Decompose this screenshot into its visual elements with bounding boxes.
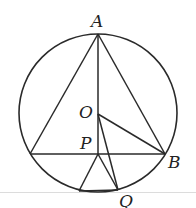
segment-dq — [79, 190, 118, 191]
geometry-diagram: A O P B Q — [0, 0, 196, 208]
label-b: B — [167, 152, 181, 172]
segments — [30, 34, 165, 191]
segment-oq — [98, 114, 118, 190]
label-q: Q — [119, 191, 133, 208]
label-o: O — [79, 102, 93, 122]
segment-ob — [98, 114, 165, 154]
segment-ab — [98, 34, 165, 154]
label-p: P — [79, 133, 92, 153]
segment-pd — [79, 154, 98, 191]
segment-pq — [98, 154, 118, 190]
label-a: A — [89, 11, 103, 31]
